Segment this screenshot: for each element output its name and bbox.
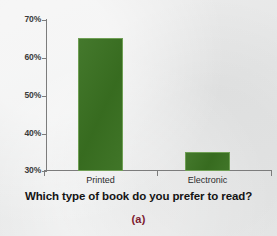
y-tick-50: 50%	[0, 91, 41, 101]
figure-caption: (a)	[0, 213, 277, 225]
x-label-printed: Printed	[58, 175, 143, 186]
y-tick-label-50: 50%	[1, 91, 41, 100]
y-tick-label-30: 30%	[1, 166, 41, 175]
y-tick-label-40: 40%	[1, 129, 41, 138]
y-tick-30: 30%	[0, 166, 41, 176]
chart-title: Which type of book do you prefer to read…	[0, 190, 277, 202]
y-tick-40: 40%	[0, 129, 41, 139]
x-tick-mid	[157, 171, 158, 176]
y-tick-mark-40	[42, 134, 47, 135]
bar-chart: 70% 60% 50% 40% 30% Printed Electronic W…	[0, 0, 277, 236]
y-tick-70: 70%	[0, 15, 41, 25]
y-tick-label-70: 70%	[1, 15, 41, 24]
y-tick-mark-70	[42, 20, 47, 21]
x-label-electronic: Electronic	[165, 175, 250, 186]
y-tick-60: 60%	[0, 53, 41, 63]
y-tick-mark-50	[42, 96, 47, 97]
x-tick-end	[271, 171, 272, 176]
bar-printed[interactable]	[78, 38, 123, 171]
x-tick-start	[44, 171, 45, 176]
bar-electronic-fill	[186, 153, 229, 170]
bar-electronic[interactable]	[185, 152, 230, 171]
bar-printed-fill	[79, 39, 122, 170]
y-tick-mark-60	[42, 58, 47, 59]
y-tick-label-60: 60%	[1, 53, 41, 62]
